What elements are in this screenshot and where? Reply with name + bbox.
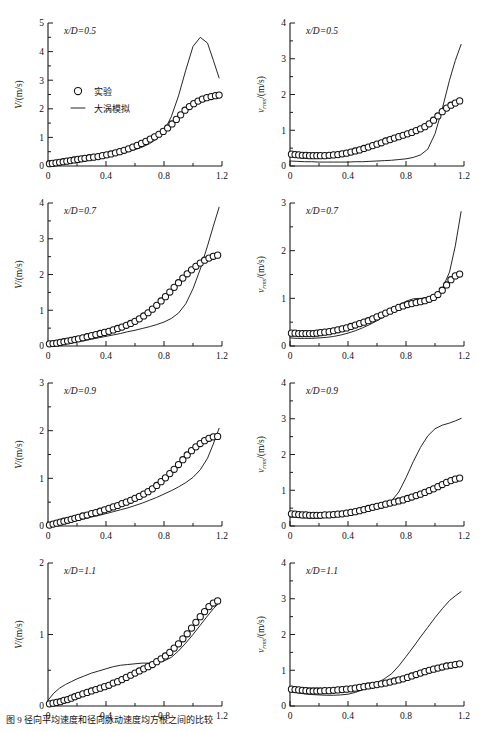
data-point (215, 598, 221, 604)
y-axis-title: V/(m/s) (14, 620, 25, 649)
y-tick-label: 3 (281, 54, 286, 64)
series-line-simulation (290, 418, 461, 517)
y-tick-label: 1 (281, 486, 286, 496)
y-tick-label: 4 (39, 198, 44, 208)
panel-condition-label: x/D=0.9 (63, 386, 96, 396)
y-tick-label: 2 (39, 558, 44, 568)
y-axis-title: V/(m/s) (14, 80, 25, 109)
series-markers-experiment (288, 661, 462, 694)
figure-caption: 图 9 径向平均速度和径向脉动速度均方根之间的比较 (6, 714, 480, 732)
y-tick-label: 0 (281, 521, 286, 531)
y-axis-title: vrms/(m/s) (256, 76, 267, 113)
legend-label-simulation: 大涡模拟 (94, 103, 130, 114)
axis-lines (48, 563, 222, 706)
y-tick-label: 3 (39, 76, 44, 86)
legend-marker-icon (74, 87, 81, 94)
data-point (457, 271, 463, 277)
data-point (184, 631, 190, 637)
y-axis-title: V/(m/s) (14, 260, 25, 289)
y-tick-label: 2 (39, 270, 44, 280)
data-point (215, 433, 221, 439)
y-tick-label: 4 (281, 378, 286, 388)
y-tick-label: 4 (281, 18, 286, 28)
series-markers-experiment (46, 92, 222, 167)
y-tick-label: 0 (281, 701, 286, 711)
y-tick-label: 5 (39, 18, 44, 28)
y-tick-label: 2 (281, 90, 286, 100)
data-point (457, 475, 463, 481)
plot-panel-panel-r2c2: 012300.40.81.2x/D=0.7vrms/(m/s) (242, 180, 484, 370)
y-tick-label: 2 (39, 104, 44, 114)
data-point (457, 98, 463, 104)
y-tick-label: 0 (281, 341, 286, 351)
y-tick-label: 2 (281, 630, 286, 640)
y-axis-title: vrms/(m/s) (256, 256, 267, 293)
series-line-simulation (48, 603, 219, 700)
y-axis-title: V/(m/s) (14, 440, 25, 469)
y-tick-label: 0 (39, 701, 44, 711)
series-line-simulation (48, 428, 219, 526)
y-tick-label: 1 (39, 306, 44, 316)
data-point (188, 625, 194, 631)
plot-panel-panel-r4c2: 0123400.40.81.2x/D=1.1vrms/(m/s)r/R (242, 540, 484, 730)
y-tick-label: 1 (281, 294, 286, 304)
y-tick-label: 1 (281, 126, 286, 136)
plot-panel-panel-r3c1: 012300.40.81.2x/D=0.9V/(m/s) (0, 360, 242, 550)
y-tick-label: 3 (281, 594, 286, 604)
y-tick-label: 3 (281, 414, 286, 424)
y-tick-label: 2 (281, 246, 286, 256)
y-tick-label: 0 (39, 521, 44, 531)
plot-panel-panel-r1c1: 01234500.40.81.2x/D=0.5V/(m/s)实验大涡模拟 (0, 0, 242, 190)
data-point (444, 282, 450, 288)
axis-lines (290, 203, 464, 346)
y-tick-label: 3 (39, 378, 44, 388)
y-axis-title: vrms/(m/s) (256, 616, 267, 653)
plot-panel-panel-r4c1: 01200.40.81.2x/D=1.1V/(m/s)r/R (0, 540, 242, 730)
series-line-simulation (290, 592, 461, 696)
y-tick-label: 0 (281, 161, 286, 171)
y-tick-label: 0 (39, 341, 44, 351)
y-tick-label: 3 (39, 234, 44, 244)
data-point (457, 661, 463, 667)
series-markers-experiment (46, 252, 220, 347)
panel-condition-label: x/D=1.1 (305, 566, 338, 576)
panel-condition-label: x/D=0.7 (305, 206, 339, 216)
y-tick-label: 1 (39, 474, 44, 484)
panel-condition-label: x/D=0.7 (63, 206, 97, 216)
series-markers-experiment (288, 271, 462, 337)
y-tick-label: 4 (39, 47, 44, 57)
y-tick-label: 4 (281, 558, 286, 568)
panel-condition-label: x/D=0.5 (305, 26, 338, 36)
figure-container: 01234500.40.81.2x/D=0.5V/(m/s)实验大涡模拟0123… (0, 0, 484, 732)
data-point (439, 287, 445, 293)
series-markers-experiment (288, 475, 462, 518)
axis-lines (48, 383, 222, 526)
data-point (193, 619, 199, 625)
data-point (216, 92, 222, 98)
series-markers-experiment (46, 598, 220, 707)
data-point (215, 252, 221, 258)
panel-condition-label: x/D=0.5 (63, 26, 96, 36)
series-markers-experiment (46, 433, 220, 528)
caption-text: 径向平均速度和径向脉动速度均方根之间的比较 (24, 715, 213, 725)
plot-panel-panel-r3c2: 0123400.40.81.2x/D=0.9vrms/(m/s) (242, 360, 484, 550)
plot-panel-panel-r1c2: 0123400.40.81.2x/D=0.5vrms/(m/s) (242, 0, 484, 190)
y-tick-label: 3 (281, 198, 286, 208)
legend: 实验大涡模拟 (71, 86, 130, 114)
y-tick-label: 2 (39, 426, 44, 436)
y-tick-label: 1 (281, 666, 286, 676)
panel-condition-label: x/D=1.1 (63, 566, 96, 576)
y-axis-title: vrms/(m/s) (256, 436, 267, 473)
y-tick-label: 1 (39, 630, 44, 640)
y-tick-label: 2 (281, 450, 286, 460)
plot-panel-panel-r2c1: 0123400.40.81.2x/D=0.7V/(m/s) (0, 180, 242, 370)
y-tick-label: 1 (39, 133, 44, 143)
panel-condition-label: x/D=0.9 (305, 386, 338, 396)
y-tick-label: 0 (39, 161, 44, 171)
caption-label: 图 9 (6, 715, 22, 725)
legend-label-experiment: 实验 (94, 86, 112, 97)
